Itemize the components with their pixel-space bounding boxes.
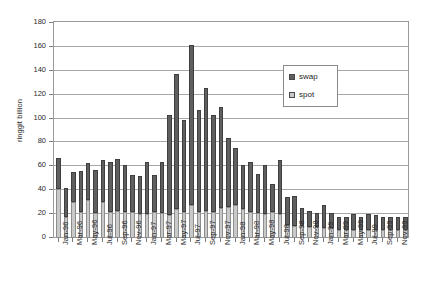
x-axis-tick-label: May-97 [179, 219, 188, 245]
bar-slot[interactable] [99, 23, 106, 238]
bar-slot[interactable] [121, 23, 128, 238]
x-axis-tick-mark [323, 238, 324, 242]
bar-slot[interactable] [387, 23, 394, 238]
bar-slot[interactable] [350, 23, 357, 238]
x-axis-tick-mark [353, 238, 354, 242]
bar-slot[interactable] [158, 23, 165, 238]
bar-slot[interactable] [70, 23, 77, 238]
bar-segment-swap [226, 138, 231, 207]
y-axis-tick-label: 60 [0, 160, 46, 169]
bar-segment-swap [241, 165, 246, 209]
bar-slot[interactable] [365, 23, 372, 238]
bar-slot[interactable] [77, 23, 84, 238]
bar-slot[interactable] [239, 23, 246, 238]
x-axis-tick-mark [176, 238, 177, 242]
bar-slot[interactable] [321, 23, 328, 238]
bar-slot[interactable] [254, 23, 261, 238]
bar-group [55, 23, 409, 238]
bar-slot[interactable] [114, 23, 121, 238]
x-axis-tick-mark [249, 238, 250, 242]
x-axis-tick-mark [308, 238, 309, 242]
bar-slot[interactable] [380, 23, 387, 238]
bar-slot[interactable] [151, 23, 158, 238]
bar-segment-swap [93, 170, 98, 213]
bar-segment-swap [101, 160, 106, 202]
bar-segment-swap [71, 172, 76, 202]
bar-slot[interactable] [173, 23, 180, 238]
bar-slot[interactable] [306, 23, 313, 238]
bar-slot[interactable] [313, 23, 320, 238]
bar-slot[interactable] [298, 23, 305, 238]
bar-slot[interactable] [269, 23, 276, 238]
bar-slot[interactable] [284, 23, 291, 238]
bar-segment-swap [79, 171, 84, 212]
bar-slot[interactable] [129, 23, 136, 238]
bar-slot[interactable] [85, 23, 92, 238]
y-axis-tick-label: 100 [0, 113, 46, 122]
bar-slot[interactable] [343, 23, 350, 238]
y-axis-tick-label: 0 [0, 232, 46, 241]
bar-segment-swap [108, 162, 113, 212]
bar-segment-swap [138, 176, 143, 214]
bar-slot[interactable] [262, 23, 269, 238]
bar-segment-swap [145, 162, 150, 215]
bar-slot[interactable] [394, 23, 401, 238]
bar-slot[interactable] [92, 23, 99, 238]
bar-slot[interactable] [335, 23, 342, 238]
bar-slot[interactable] [210, 23, 217, 238]
x-axis-tick-label: Jul-99 [370, 224, 379, 245]
x-axis-tick-label: Jan-96 [61, 221, 70, 245]
x-axis-tick-label: May-98 [267, 219, 276, 245]
x-axis-tick-mark [131, 238, 132, 242]
bar-slot[interactable] [144, 23, 151, 238]
bar-segment-swap [278, 160, 283, 214]
bar-slot[interactable] [372, 23, 379, 238]
bar-slot[interactable] [247, 23, 254, 238]
x-axis-tick-mark [294, 238, 295, 242]
bar-slot[interactable] [217, 23, 224, 238]
legend-item-spot: spot [289, 91, 314, 99]
bar-segment-swap [160, 162, 165, 213]
bar-segment-swap [130, 175, 135, 212]
y-axis-tick-label: 120 [0, 89, 46, 98]
x-axis-tick-label: Sep-96 [120, 220, 129, 245]
x-axis-tick-mark [367, 238, 368, 242]
x-axis-tick-label: Sep-97 [208, 220, 217, 245]
bar-slot[interactable] [62, 23, 69, 238]
bar-segment-swap [219, 107, 224, 209]
bar-slot[interactable] [195, 23, 202, 238]
legend-label-spot: spot [299, 91, 314, 99]
bar-slot[interactable] [136, 23, 143, 238]
bar-slot[interactable] [291, 23, 298, 238]
y-axis-tick-label: 160 [0, 41, 46, 50]
bar-slot[interactable] [328, 23, 335, 238]
bar-slot[interactable] [166, 23, 173, 238]
bar-slot[interactable] [188, 23, 195, 238]
bar-slot[interactable] [225, 23, 232, 238]
x-axis-tick-label: Jul-97 [193, 224, 202, 245]
bar-slot[interactable] [357, 23, 364, 238]
bar-segment-swap [189, 45, 194, 205]
bar-segment-swap [256, 174, 261, 213]
x-axis-tick-label: Jan-99 [326, 221, 335, 245]
bar-slot[interactable] [232, 23, 239, 238]
plot-area [53, 21, 409, 238]
y-axis-tick-label: 180 [0, 17, 46, 26]
x-axis-tick-label: Mar-96 [75, 221, 84, 245]
bar-slot[interactable] [180, 23, 187, 238]
bar-segment-swap [174, 74, 179, 209]
bar-slot[interactable] [55, 23, 62, 238]
bar-segment-swap [204, 88, 209, 211]
x-axis-tick-mark [146, 238, 147, 242]
bar-slot[interactable] [402, 23, 409, 238]
chart-container: ringgit billion 020406080100120140160180… [0, 0, 427, 287]
bar-slot[interactable] [203, 23, 210, 238]
x-axis-tick-label: Jul-96 [105, 224, 114, 245]
bar-slot[interactable] [276, 23, 283, 238]
bar-slot[interactable] [107, 23, 114, 238]
bar-segment-swap [285, 197, 290, 224]
x-axis-tick-mark [161, 238, 162, 242]
x-axis-tick-mark [235, 238, 236, 242]
y-axis-tick-label: 140 [0, 65, 46, 74]
bar-segment-swap [64, 188, 69, 217]
